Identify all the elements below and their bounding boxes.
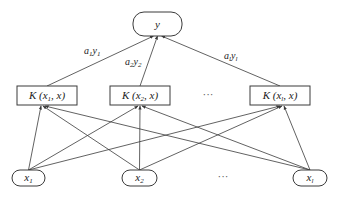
subscript: 2 — [138, 61, 142, 69]
input-node-x2: x2 — [122, 170, 157, 186]
edge-x2-to-k2 — [140, 106, 141, 170]
edge-x2-to-k1 — [43, 106, 140, 170]
subscript: l — [311, 177, 313, 185]
output-label: y — [154, 18, 160, 30]
input-node-xl: xl — [293, 170, 327, 186]
input-node-x1: x1 — [12, 170, 45, 186]
edge-x2-to-kl — [140, 106, 283, 170]
kernel-label: K (xl, x) — [262, 89, 298, 103]
edge-weight-label-k2: a2y2 — [125, 56, 142, 69]
edge-x1-to-kl — [29, 106, 281, 170]
label-text: , x) — [144, 89, 158, 102]
edge-weight-label-kl: alyl — [224, 50, 237, 63]
subscript: 2 — [140, 177, 144, 185]
edge-xl-to-kl — [284, 106, 310, 170]
edge-k2-to-y — [140, 36, 158, 86]
subscript: 1 — [97, 50, 101, 58]
output-node-y: y — [133, 12, 182, 36]
kernel-node-k2: K (x2, x) — [110, 86, 170, 105]
subscript: l — [235, 55, 237, 63]
nodes-layer: yK (x1, x)K (x2, x)K (xl, x)x1x2xl — [12, 12, 327, 186]
label-text: K (x — [121, 89, 141, 102]
label-text: K (x — [262, 89, 282, 102]
label-text: K (x — [28, 89, 48, 102]
edge-weight-label-k1: a1y1 — [84, 45, 100, 58]
subscript: 1 — [29, 177, 33, 185]
kernel-label: K (x1, x) — [28, 89, 66, 103]
kernel-node-kl: K (xl, x) — [250, 86, 310, 105]
edge-xl-to-k2 — [142, 106, 310, 170]
kernel-ellipsis: ··· — [203, 88, 214, 100]
label-text: , x) — [51, 89, 65, 102]
edge-x1-to-k1 — [29, 106, 42, 170]
edge-xl-to-k1 — [45, 106, 310, 170]
input-ellipsis: ··· — [218, 170, 229, 182]
edge-kl-to-y — [162, 36, 281, 86]
kernel-node-k1: K (x1, x) — [17, 86, 77, 105]
kernel-label: K (x2, x) — [121, 89, 159, 103]
kernel-network-diagram: yK (x1, x)K (x2, x)K (xl, x)x1x2xl ·····… — [0, 0, 337, 198]
label-text: , x) — [283, 89, 297, 102]
